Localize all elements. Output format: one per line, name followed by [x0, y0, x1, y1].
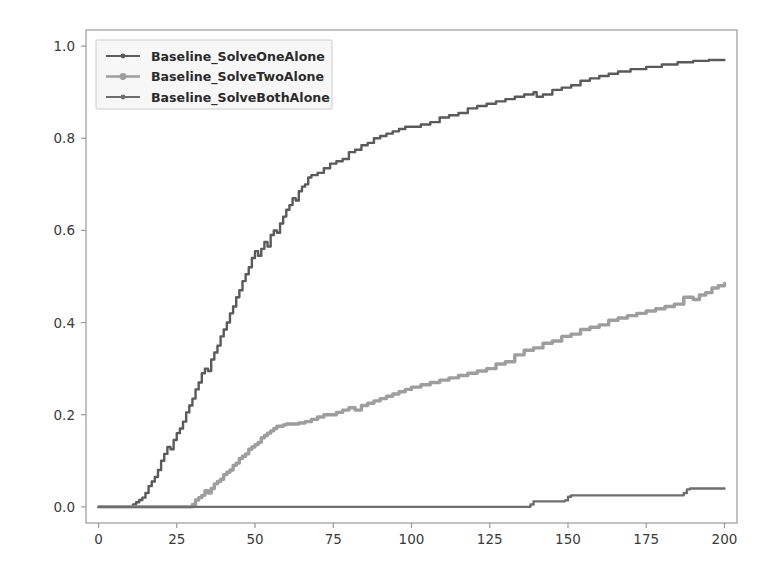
x-tick-label: 25	[168, 531, 185, 547]
y-tick-label: 1.0	[54, 38, 75, 54]
x-tick-label: 75	[325, 531, 342, 547]
x-tick-label: 175	[633, 531, 659, 547]
chart-legend: Baseline_SolveOneAloneBaseline_SolveTwoA…	[96, 40, 332, 109]
y-tick-label: 0.6	[54, 222, 75, 238]
x-tick-label: 50	[246, 531, 263, 547]
y-tick-label: 0.0	[54, 499, 75, 515]
figure-container: 0255075100125150175200 0.00.20.40.60.81.…	[0, 0, 773, 575]
legend-marker-icon	[121, 54, 126, 59]
y-tick-label: 0.8	[54, 130, 75, 146]
legend-label: Baseline_SolveOneAlone	[151, 49, 325, 65]
legend-label: Baseline_SolveBothAlone	[151, 90, 330, 106]
y-tick-label: 0.2	[54, 407, 75, 423]
legend-marker-icon	[120, 73, 127, 80]
chart-canvas: 0255075100125150175200 0.00.20.40.60.81.…	[0, 0, 773, 575]
y-tick-label: 0.4	[54, 315, 75, 331]
legend-marker-icon	[121, 95, 126, 100]
x-tick-label: 150	[555, 531, 581, 547]
legend-label: Baseline_SolveTwoAlone	[151, 69, 324, 85]
x-tick-label: 100	[399, 531, 425, 547]
x-tick-label: 0	[94, 531, 103, 547]
x-tick-label: 125	[477, 531, 503, 547]
x-tick-label: 200	[712, 531, 738, 547]
